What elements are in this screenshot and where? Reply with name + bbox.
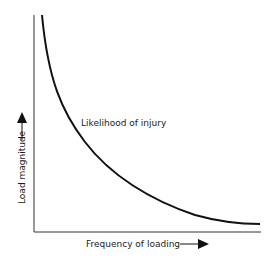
load-injury-diagram: Likelihood of injury Frequency of loadin… <box>0 0 280 266</box>
y-axis-label: Load magnitude <box>17 130 27 204</box>
x-arrow-icon <box>180 239 209 249</box>
x-axis-label: Frequency of loading <box>86 239 180 249</box>
curve-label: Likelihood of injury <box>81 118 167 128</box>
